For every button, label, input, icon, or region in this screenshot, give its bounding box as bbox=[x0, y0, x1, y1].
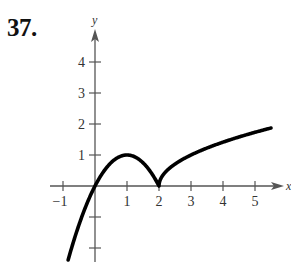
x-tick-label: 4 bbox=[220, 194, 227, 209]
x-tick-label: −1 bbox=[53, 194, 68, 209]
y-tick-label: 4 bbox=[78, 55, 85, 70]
function-graph: xy−1123451234 bbox=[0, 0, 291, 266]
axes bbox=[50, 29, 284, 262]
x-tick-label: 2 bbox=[156, 194, 163, 209]
x-tick-label: 1 bbox=[124, 194, 131, 209]
y-tick-label: 2 bbox=[78, 117, 85, 132]
function-curve bbox=[68, 128, 271, 260]
tick-labels: xy−1123451234 bbox=[53, 13, 291, 209]
x-tick-label: 3 bbox=[188, 194, 195, 209]
tick-marks bbox=[63, 62, 255, 248]
x-axis-label: x bbox=[285, 179, 291, 193]
y-axis-label: y bbox=[91, 13, 98, 27]
y-tick-label: 1 bbox=[78, 148, 85, 163]
y-tick-label: 3 bbox=[78, 86, 85, 101]
x-tick-label: 5 bbox=[252, 194, 259, 209]
